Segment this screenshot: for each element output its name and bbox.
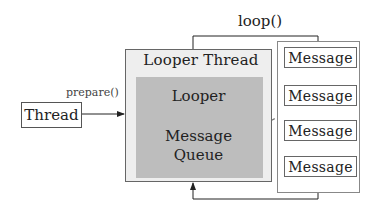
thread-node: Thread: [21, 102, 82, 128]
looper-label: Looper: [136, 87, 261, 105]
message-node: Message: [284, 120, 357, 141]
thread-label: Thread: [24, 106, 78, 124]
loop-label: loop(): [238, 12, 282, 30]
message-queue-label-line2: Queue: [136, 146, 261, 165]
message-node: Message: [284, 156, 357, 177]
message-queue-label-line1: Message: [136, 127, 261, 146]
prepare-label: prepare(): [66, 86, 119, 99]
message-queue-label: Message Queue: [136, 127, 261, 165]
message-node: Message: [284, 85, 357, 106]
message-node: Message: [284, 47, 357, 68]
looper-thread-label: Looper Thread: [135, 51, 267, 69]
